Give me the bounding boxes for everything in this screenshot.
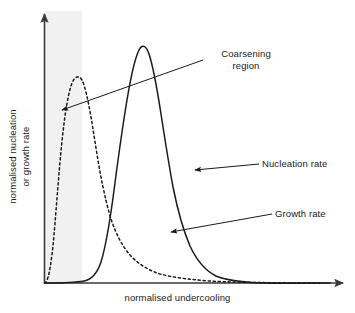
nucleation-leader-line xyxy=(195,164,259,170)
chart-plot-area xyxy=(0,0,355,313)
annotation-coarsening-region: Coarseningregion xyxy=(205,48,287,71)
annotation-nucleation-rate: Nucleation rate xyxy=(262,158,327,170)
annotation-growth-rate: Growth rate xyxy=(275,208,326,220)
y-axis-label: normalised nucleationor growth rate xyxy=(7,92,32,222)
chart-figure: normalised undercooling normalised nucle… xyxy=(0,0,355,313)
x-axis-label: normalised undercooling xyxy=(0,292,355,304)
growth-leader-line xyxy=(171,214,272,232)
coarsening-leader-line xyxy=(62,60,203,110)
y-axis-label-line2: or growth rate xyxy=(19,92,32,222)
coarsening-region-shading xyxy=(45,11,83,283)
annotation-coarsening-line1: Coarsening xyxy=(205,48,287,60)
annotation-coarsening-line2: region xyxy=(205,60,287,72)
y-axis-label-line1: normalised nucleation xyxy=(7,92,20,222)
growth-rate-curve xyxy=(45,77,321,283)
